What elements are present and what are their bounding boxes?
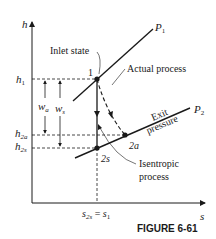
ws-label: ws: [55, 102, 65, 116]
isentropic-leader-arrowhead: [98, 124, 102, 130]
state-2s-label: 2s: [101, 153, 110, 164]
y-axis-label: h: [22, 18, 28, 30]
inlet-state-label: Inlet state: [50, 45, 90, 56]
state-1-label: 1: [88, 67, 93, 78]
h2a-label: h2a: [15, 127, 28, 141]
state-2a-point: [122, 132, 127, 137]
p1-label: P1: [154, 21, 166, 35]
s-tick-label: s2s = s1: [82, 208, 111, 221]
inlet-state-leader: [97, 52, 100, 74]
h-s-diagram: h s h1 h2a h2s wa ws P1 P2 1 2a 2s Inlet…: [0, 0, 216, 239]
p2-label: P2: [193, 103, 205, 117]
state-1-point: [94, 76, 99, 81]
isentropic-arrowhead: [94, 111, 100, 117]
figure-caption: FIGURE 6-61: [137, 223, 198, 234]
h2s-label: h2s: [15, 140, 27, 154]
actual-process-label: Actual process: [127, 63, 186, 74]
state-2a-label: 2a: [129, 140, 139, 151]
state-2s-point: [94, 145, 99, 150]
isentropic-process-label-1: Isentropic: [139, 158, 180, 169]
x-axis-label: s: [200, 210, 204, 222]
actual-process-leader: [112, 69, 125, 85]
wa-label: wa: [38, 100, 49, 114]
actual-process-curve: [97, 79, 125, 135]
h1-label: h1: [16, 73, 26, 87]
isentropic-process-label-2: process: [139, 171, 169, 182]
